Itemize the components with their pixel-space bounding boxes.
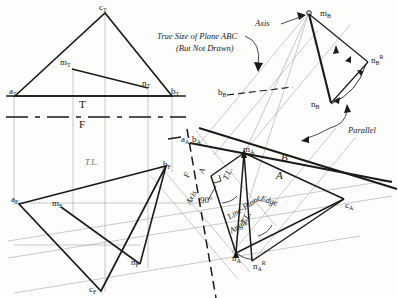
annotation-parallel: Parallel — [348, 126, 376, 135]
front-view-line-mn — [61, 166, 166, 264]
point-label-n-a-r: nAR — [253, 262, 266, 271]
point-label-b-b: bB — [218, 88, 227, 97]
point-label-m-f: mF — [52, 199, 62, 208]
point-label-n-b: nB — [311, 100, 320, 109]
top-view-line-mn — [72, 69, 148, 88]
annotation-axis-top: Axis — [255, 19, 270, 28]
point-label-a-t: aT — [9, 87, 17, 96]
point-label-m-t: mT — [60, 58, 71, 67]
fold-label-A: A — [276, 170, 283, 181]
point-label-b-f: bF — [163, 160, 171, 169]
drawing-canvas: True Size of Plane ABC (But Not Drawn) A… — [0, 0, 398, 298]
point-label-n-f: nF — [131, 258, 139, 267]
point-label-n-t: nT — [142, 79, 150, 88]
fold-label-B: B — [281, 152, 288, 163]
point-label-c-f: cF — [89, 285, 96, 294]
front-view-triangle — [19, 166, 166, 291]
projector-lines — [8, 12, 392, 293]
point-label-n-a: nA — [232, 254, 241, 263]
point-label-m-a: mA — [243, 145, 254, 154]
point-label-a-f: aF — [11, 195, 18, 204]
point-label-b-a: bA — [192, 135, 201, 144]
annotation-tl-front: T.L. — [85, 158, 98, 167]
point-label-a-a: aA — [181, 135, 189, 144]
point-label-c-t: cT — [99, 3, 107, 12]
leader-lines — [245, 16, 347, 139]
angle-arc-line-plane — [258, 225, 272, 236]
fold-line-TF — [6, 96, 186, 117]
annotation-true-size-line2: (But Not Drawn) — [176, 44, 234, 53]
angle-arc-90 — [222, 196, 237, 203]
fold-line-FA-stub — [168, 137, 181, 139]
aux-b-line-mb-nb — [309, 14, 331, 103]
aux-b-triangle — [309, 14, 368, 103]
annotation-angle-90: 90° — [200, 196, 213, 205]
fold-label-T: T — [79, 99, 86, 110]
point-label-m-b: mB — [320, 9, 331, 18]
point-label-n-b-r: nBR — [371, 56, 384, 65]
annotation-true-size-line1: True Size of Plane ABC — [157, 32, 237, 41]
point-label-c-a: cA — [345, 201, 353, 210]
point-label-b-t: bT — [171, 87, 179, 96]
fold-label-F: F — [79, 119, 85, 130]
